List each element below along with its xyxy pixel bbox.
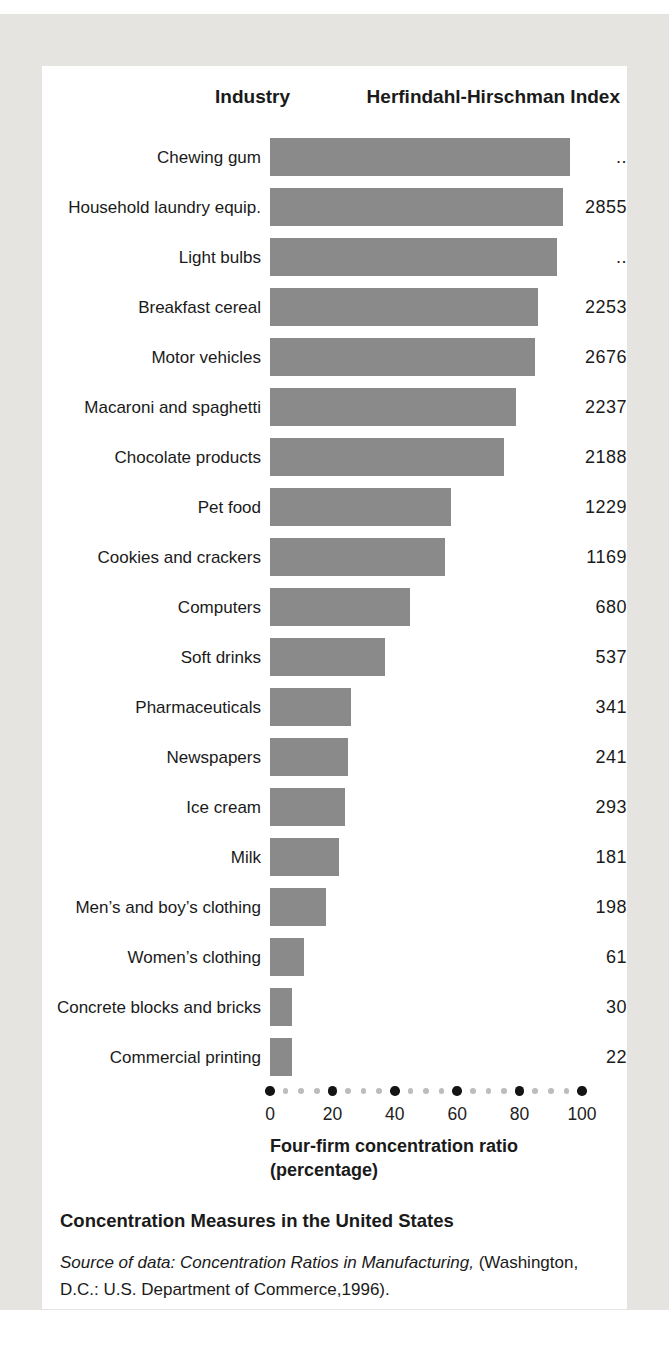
concentration-bar — [270, 588, 410, 626]
axis-minor-dot — [564, 1088, 570, 1094]
hhi-value: 198 — [582, 897, 627, 918]
concentration-bar — [270, 938, 304, 976]
bar-track — [270, 338, 582, 376]
axis-major-dot — [452, 1086, 462, 1096]
industry-label: Cookies and crackers — [42, 548, 270, 567]
concentration-bar — [270, 888, 326, 926]
bar-track — [270, 988, 582, 1026]
concentration-bar — [270, 688, 351, 726]
industry-row: Women’s clothing61 — [42, 932, 627, 982]
industry-label: Milk — [42, 848, 270, 867]
industry-label: Light bulbs — [42, 248, 270, 267]
bar-track — [270, 288, 582, 326]
concentration-bar — [270, 288, 538, 326]
industry-row: Pharmaceuticals341 — [42, 682, 627, 732]
page-background: Industry Herfindahl-Hirschman Index Chew… — [0, 14, 669, 1310]
x-axis-title: Four-firm concentration ratio (percentag… — [270, 1134, 518, 1182]
concentration-bar — [270, 238, 557, 276]
industry-column-header: Industry — [42, 86, 290, 108]
bar-track — [270, 1038, 582, 1076]
industry-row: Concrete blocks and bricks30 — [42, 982, 627, 1032]
industry-row: Soft drinks537 — [42, 632, 627, 682]
axis-minor-dot — [345, 1088, 351, 1094]
axis-minor-dot — [501, 1088, 507, 1094]
bar-track — [270, 188, 582, 226]
concentration-bar — [270, 188, 563, 226]
bar-track — [270, 538, 582, 576]
textbook-figure-page: Industry Herfindahl-Hirschman Index Chew… — [0, 0, 669, 1346]
axis-tick-labels: 020406080100 — [270, 1104, 582, 1126]
x-axis-title-line1: Four-firm concentration ratio — [270, 1134, 518, 1158]
axis-minor-dot — [423, 1088, 429, 1094]
concentration-bar — [270, 388, 516, 426]
industry-row: Chewing gum.. — [42, 132, 627, 182]
concentration-bar — [270, 138, 570, 176]
axis-minor-dot — [439, 1088, 445, 1094]
industry-label: Macaroni and spaghetti — [42, 398, 270, 417]
hhi-value: 2855 — [582, 197, 627, 218]
axis-tick-label: 100 — [552, 1104, 612, 1125]
axis-major-dot — [328, 1086, 338, 1096]
industry-label: Commercial printing — [42, 1048, 270, 1067]
concentration-bar — [270, 788, 345, 826]
industry-label: Chewing gum — [42, 148, 270, 167]
bar-track — [270, 138, 582, 176]
x-axis-title-line2: (percentage) — [270, 1158, 518, 1182]
bar-chart-rows: Chewing gum..Household laundry equip.285… — [42, 132, 627, 1082]
bar-track — [270, 588, 582, 626]
axis-minor-dot — [470, 1088, 476, 1094]
hhi-value: 1169 — [582, 547, 627, 568]
hhi-value: 537 — [582, 647, 627, 668]
concentration-bar — [270, 738, 348, 776]
industry-row: Light bulbs.. — [42, 232, 627, 282]
bar-track — [270, 438, 582, 476]
industry-row: Chocolate products2188 — [42, 432, 627, 482]
industry-row: Breakfast cereal2253 — [42, 282, 627, 332]
industry-label: Chocolate products — [42, 448, 270, 467]
industry-label: Pharmaceuticals — [42, 698, 270, 717]
industry-label: Computers — [42, 598, 270, 617]
industry-row: Cookies and crackers1169 — [42, 532, 627, 582]
hhi-value: 2188 — [582, 447, 627, 468]
figure-source-note: Source of data: Concentration Ratios in … — [60, 1250, 617, 1303]
axis-tick-label: 40 — [365, 1104, 425, 1125]
bar-track — [270, 638, 582, 676]
axis-major-dot — [390, 1086, 400, 1096]
industry-label: Ice cream — [42, 798, 270, 817]
axis-major-dot — [265, 1086, 275, 1096]
industry-row: Commercial printing22 — [42, 1032, 627, 1082]
source-italic-part: Source of data: Concentration Ratios in … — [60, 1253, 479, 1272]
industry-label: Soft drinks — [42, 648, 270, 667]
hhi-value: 2253 — [582, 297, 627, 318]
axis-tick-label: 60 — [427, 1104, 487, 1125]
industry-label: Breakfast cereal — [42, 298, 270, 317]
axis-minor-dot — [283, 1088, 289, 1094]
axis-minor-dot — [532, 1088, 538, 1094]
axis-minor-dot — [298, 1088, 304, 1094]
axis-minor-dot — [376, 1088, 382, 1094]
axis-major-dot — [515, 1086, 525, 1096]
axis-major-dot — [577, 1086, 587, 1096]
bar-track — [270, 838, 582, 876]
concentration-bar — [270, 1038, 292, 1076]
axis-minor-dot — [314, 1088, 320, 1094]
axis-minor-dot — [408, 1088, 414, 1094]
bar-track — [270, 938, 582, 976]
axis-tick-label: 20 — [302, 1104, 362, 1125]
concentration-bar — [270, 838, 339, 876]
x-axis: 020406080100 — [270, 1082, 582, 1134]
figure-card: Industry Herfindahl-Hirschman Index Chew… — [42, 66, 627, 1309]
bar-track — [270, 738, 582, 776]
industry-row: Household laundry equip.2855 — [42, 182, 627, 232]
hhi-value: 181 — [582, 847, 627, 868]
industry-row: Men’s and boy’s clothing198 — [42, 882, 627, 932]
concentration-bar — [270, 438, 504, 476]
hhi-value: 61 — [582, 947, 627, 968]
industry-row: Newspapers241 — [42, 732, 627, 782]
bar-track — [270, 488, 582, 526]
axis-tick-label: 80 — [490, 1104, 550, 1125]
axis-minor-dot — [486, 1088, 492, 1094]
hhi-value: 680 — [582, 597, 627, 618]
hhi-value: .. — [582, 247, 627, 268]
column-headers: Industry Herfindahl-Hirschman Index — [42, 86, 627, 112]
